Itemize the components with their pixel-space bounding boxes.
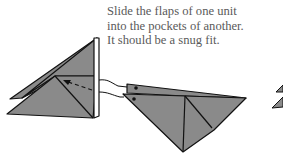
left-unit-edge <box>94 38 99 118</box>
left-origami-unit <box>7 38 99 118</box>
lower-flap-connector <box>99 92 124 97</box>
flap-dot-lower-icon <box>132 97 136 101</box>
flap-dot-upper-icon <box>134 86 138 90</box>
partial-unit-lower <box>272 97 283 108</box>
partial-unit-upper <box>276 85 283 92</box>
right-origami-unit <box>123 84 246 152</box>
partial-next-unit <box>272 85 283 108</box>
origami-diagram <box>0 0 283 155</box>
upper-flap-connector <box>99 80 127 87</box>
